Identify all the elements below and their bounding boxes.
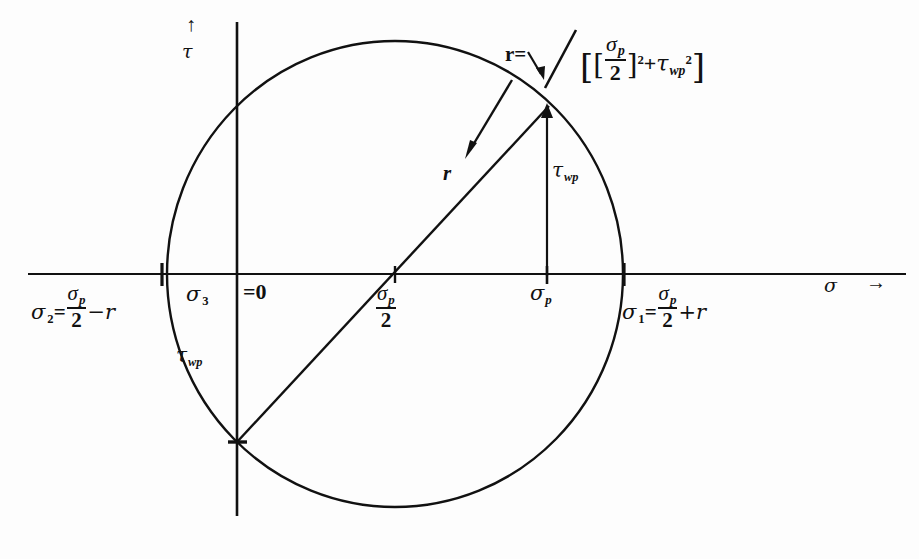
- radius-eq-arrowhead-icon: [536, 66, 545, 80]
- tau-axis-arrow-icon: ↑: [186, 14, 196, 34]
- sigma2-subscript: 2: [45, 312, 53, 326]
- sigma2-num-subscript: p: [78, 292, 86, 307]
- formula-open-inner-bracket: [: [593, 48, 604, 80]
- formula-open-outer-bracket: [: [580, 46, 593, 86]
- sigma1-denominator: 2: [658, 309, 678, 331]
- radical-slash-stroke: [545, 30, 576, 88]
- sigma-p-label: σp: [530, 283, 552, 306]
- tau-wp-left-label: τwp: [176, 345, 203, 368]
- formula-leader-arrowhead-icon: [465, 140, 477, 159]
- sigma3-subscript: 3: [200, 294, 208, 308]
- sigma3-value-label: =0: [243, 281, 267, 303]
- sigma2-fraction: σp2: [67, 283, 87, 331]
- sigma-p-half-denominator: 2: [376, 309, 396, 331]
- radius-label: r: [443, 163, 451, 184]
- sigma1-symbol: σ: [622, 300, 636, 324]
- sigma-p-half-num-subscript: p: [387, 292, 395, 307]
- radius-equals-label: r=: [505, 44, 526, 65]
- sigma3-symbol: σ: [186, 282, 200, 306]
- sigma-p-half-num-symbol: σ: [377, 281, 387, 305]
- sigma2-denominator: 2: [67, 309, 87, 331]
- formula-close-outer-bracket: ]: [692, 46, 705, 86]
- formula-num-symbol: σ: [606, 31, 617, 56]
- sigma1-equals: =: [645, 300, 657, 324]
- tau-wp-vertical-subscript: wp: [563, 170, 578, 184]
- tau-axis-label: τ: [182, 42, 193, 61]
- sigma-p-half-fraction: σp2: [376, 283, 396, 331]
- sigma1-label: σ1=σp2+r: [622, 283, 706, 331]
- sigma3-label: σ3: [186, 284, 209, 308]
- sigma2-label: σ2=σp2−r: [31, 283, 115, 331]
- sigma2-num-symbol: σ: [68, 281, 78, 305]
- formula-denominator: 2: [605, 61, 626, 84]
- sigma-p-subscript: p: [544, 292, 552, 307]
- sigma2-equals: =: [54, 300, 66, 324]
- formula-num-subscript: p: [617, 43, 625, 58]
- sigma1-num-symbol: σ: [659, 281, 669, 305]
- sigma-axis-arrow-icon: →: [866, 272, 886, 292]
- formula-tau-symbol: τ: [656, 51, 668, 76]
- sigma1-tail: +r: [678, 300, 706, 324]
- sigma1-fraction: σp2: [658, 283, 678, 331]
- radius-formula: [[σp2]2+τwp2]: [580, 33, 705, 84]
- sigma2-numerator: σp: [67, 283, 87, 306]
- formula-close-inner-bracket: ]: [627, 48, 638, 80]
- sigma2-symbol: σ: [31, 300, 45, 324]
- tau-wp-vertical-label: τwp: [552, 160, 579, 183]
- sigma1-numerator: σp: [658, 283, 678, 306]
- tau-wp-left-subscript: wp: [187, 355, 202, 369]
- sigma2-tail: −r: [87, 300, 115, 324]
- sigma-axis-label: σ: [824, 276, 837, 295]
- sigma-p-symbol: σ: [530, 281, 544, 305]
- sigma-p-half-numerator: σp: [376, 283, 396, 306]
- tau-wp-left-symbol: τ: [176, 343, 187, 367]
- formula-leader-line: [470, 80, 512, 150]
- sigma1-num-subscript: p: [669, 292, 677, 307]
- formula-fraction: σp2: [605, 33, 626, 84]
- sigma-p-half-label: σp2: [375, 283, 397, 331]
- tau-wp-vertical-symbol: τ: [552, 158, 563, 182]
- sigma1-subscript: 1: [636, 312, 644, 326]
- formula-tau-subscript: wp: [669, 63, 686, 78]
- mohr-circle-figure: ↑ τ σ → σ2=σp2−r σ3 =0 σp2 σp σ1=σp2+r τ…: [0, 0, 919, 559]
- formula-plus-sign: +: [644, 51, 657, 76]
- figure-linework: [0, 0, 919, 559]
- formula-numerator: σp: [605, 33, 626, 58]
